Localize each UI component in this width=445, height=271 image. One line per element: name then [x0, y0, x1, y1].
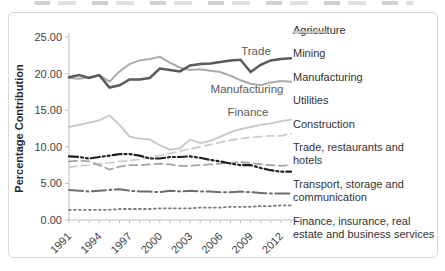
legend-item-utilities: Utilities [293, 94, 435, 107]
y-tick-label: 5.00 [41, 177, 62, 189]
x-tick-label: 1994 [78, 230, 104, 256]
legend-item-finance-insurance-real-estate: Finance, insurance, real estate and busi… [293, 215, 435, 242]
y-tick-label: 20.00 [34, 68, 62, 80]
legend-label-construction: Construction [293, 118, 355, 131]
y-tick-label: 15.00 [34, 104, 62, 116]
legend-label-utilities: Utilities [293, 94, 328, 107]
line-finance-insurance-real-estate [69, 115, 291, 149]
annotation-trade: Trade [241, 45, 271, 57]
legend-swatch-finance-insurance-real-estate [293, 27, 327, 37]
legend-label-manufacturing: Manufacturing [293, 71, 363, 84]
x-tick-label: 2012 [260, 230, 286, 256]
cropped-caption-remnant [34, 1, 414, 5]
legend-label-mining: Mining [293, 47, 325, 60]
legend: AgricultureMiningManufacturingUtilitiesC… [293, 24, 435, 251]
legend-label-trade-restaurants-hotels: Trade, restaurants and hotels [293, 141, 435, 168]
chart-frame: 0.005.0010.0015.0020.0025.00199119941997… [8, 12, 438, 258]
y-tick-label: 10.00 [34, 141, 62, 153]
legend-item-construction: Construction [293, 118, 435, 131]
x-tick-label: 2003 [169, 230, 195, 256]
line-transport-storage-communication [69, 134, 291, 168]
legend-item-manufacturing: Manufacturing [293, 71, 435, 84]
y-tick-label: 25.00 [34, 31, 62, 43]
x-tick-label: 1991 [48, 230, 74, 256]
legend-label-finance-insurance-real-estate: Finance, insurance, real estate and busi… [293, 215, 435, 242]
annotation-manufacturing: Manufacturing [211, 83, 284, 95]
y-tick-label: 0.00 [41, 214, 62, 226]
x-tick-label: 2009 [229, 230, 255, 256]
line-construction [69, 161, 291, 170]
legend-item-mining: Mining [293, 47, 435, 60]
legend-label-transport-storage-communication: Transport, storage and communication [293, 178, 435, 205]
x-tick-label: 1997 [108, 230, 134, 256]
legend-item-trade-restaurants-hotels: Trade, restaurants and hotels [293, 141, 435, 168]
annotation-finance: Finance [228, 106, 269, 118]
y-axis-title: Percentage Contribution [13, 64, 25, 193]
x-tick-label: 2000 [138, 230, 164, 256]
legend-item-transport-storage-communication: Transport, storage and communication [293, 178, 435, 205]
x-tick-label: 2006 [199, 230, 225, 256]
line-agriculture [69, 189, 291, 193]
line-utilities [69, 205, 291, 209]
